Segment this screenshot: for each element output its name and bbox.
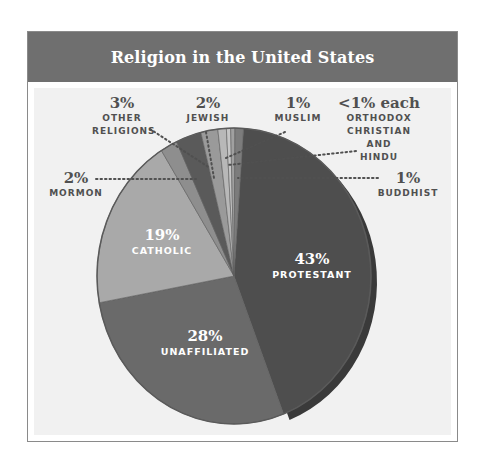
label-protestant: 43% PROTESTANT	[262, 251, 362, 281]
label-mormon: 2% MORMON	[48, 170, 104, 200]
label-catholic: 19% CATHOLIC	[122, 227, 202, 257]
pie-chart	[0, 0, 487, 465]
label-jewish: 2% JEWISH	[180, 95, 236, 125]
label-unaffiliated: 28% UNAFFILIATED	[150, 328, 260, 358]
label-orthodox-hindu: <1% each ORTHODOX CHRISTIAN AND HINDU	[333, 95, 425, 164]
label-other-religions: 3% OTHER RELIGIONS	[92, 95, 152, 138]
label-muslim: 1% MUSLIM	[270, 95, 326, 125]
label-buddhist: 1% BUDDHIST	[376, 170, 440, 200]
